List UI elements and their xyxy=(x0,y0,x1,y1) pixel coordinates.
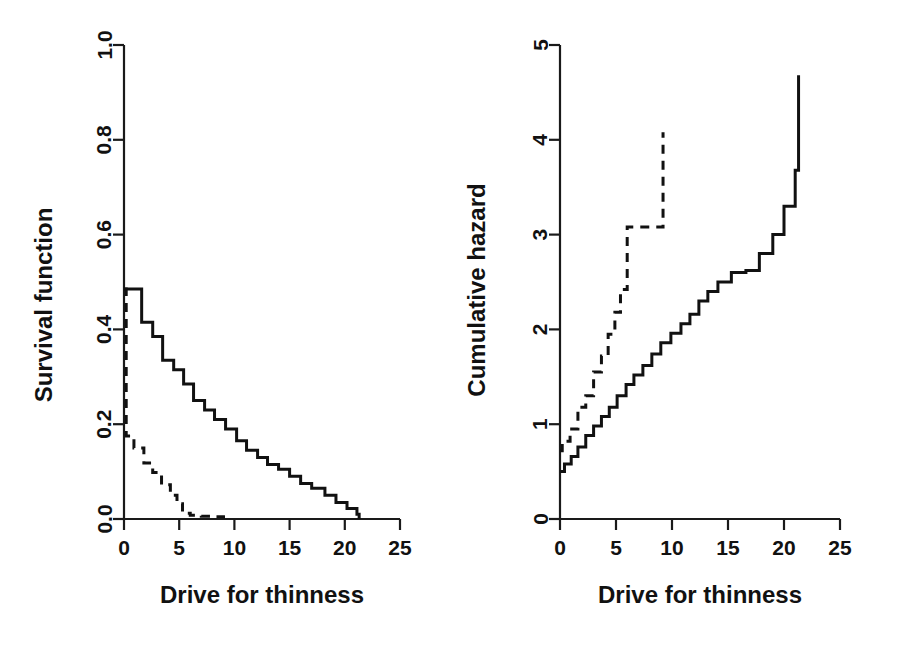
x-tick-label: 0 xyxy=(554,536,566,559)
survival-function-plot: 0.00.20.40.60.81.0 0510152025 Survival f… xyxy=(0,0,455,654)
survival-dashed-curve xyxy=(124,289,227,517)
survival-y-axis-label: Survival function xyxy=(30,208,57,403)
survival-x-axis-label: Drive for thinness xyxy=(160,581,364,608)
cumulative-hazard-plot: 012345 0510152025 Cumulative hazard Driv… xyxy=(455,0,911,654)
hazard-y-axis-label: Cumulative hazard xyxy=(463,183,490,396)
survival-y-tick-labels: 0.00.20.40.60.81.0 xyxy=(93,30,116,533)
y-tick-label: 1 xyxy=(529,418,552,430)
y-tick-label: 2 xyxy=(529,324,552,336)
y-tick-label: 0 xyxy=(529,513,552,525)
survival-x-tick-labels: 0510152025 xyxy=(118,536,412,559)
hazard-x-tick-labels: 0510152025 xyxy=(554,536,852,559)
x-tick-label: 10 xyxy=(660,536,683,559)
x-tick-label: 5 xyxy=(173,536,185,559)
y-tick-label: 1.0 xyxy=(93,30,116,59)
hazard-x-ticks xyxy=(560,519,840,530)
y-tick-label: 0.0 xyxy=(93,504,116,533)
hazard-axes xyxy=(549,45,840,530)
x-tick-label: 15 xyxy=(716,536,740,559)
hazard-dashed-curve xyxy=(560,132,663,451)
x-tick-label: 20 xyxy=(772,536,795,559)
hazard-solid-curve xyxy=(560,75,799,471)
survival-solid-curve xyxy=(124,289,359,519)
hazard-curves xyxy=(560,75,799,471)
hazard-y-ticks xyxy=(549,45,560,519)
x-tick-label: 25 xyxy=(828,536,852,559)
survival-y-ticks xyxy=(113,45,124,519)
y-tick-label: 3 xyxy=(529,229,552,241)
x-tick-label: 20 xyxy=(333,536,356,559)
x-tick-label: 10 xyxy=(223,536,246,559)
survival-function-panel: 0.00.20.40.60.81.0 0510152025 Survival f… xyxy=(0,0,455,654)
y-tick-label: 0.6 xyxy=(93,220,116,249)
y-tick-label: 4 xyxy=(529,134,552,146)
y-tick-label: 0.4 xyxy=(93,314,116,344)
x-tick-label: 25 xyxy=(388,536,412,559)
y-tick-label: 0.8 xyxy=(93,125,116,155)
y-tick-label: 0.2 xyxy=(93,410,116,439)
x-tick-label: 5 xyxy=(610,536,622,559)
survival-x-ticks xyxy=(124,519,400,530)
cumulative-hazard-panel: 012345 0510152025 Cumulative hazard Driv… xyxy=(455,0,911,654)
hazard-y-tick-labels: 012345 xyxy=(529,39,552,525)
y-tick-label: 5 xyxy=(529,39,552,51)
figure-container: 0.00.20.40.60.81.0 0510152025 Survival f… xyxy=(0,0,911,654)
x-tick-label: 15 xyxy=(278,536,302,559)
survival-curves xyxy=(124,289,359,519)
x-tick-label: 0 xyxy=(118,536,130,559)
hazard-x-axis-label: Drive for thinness xyxy=(598,581,802,608)
